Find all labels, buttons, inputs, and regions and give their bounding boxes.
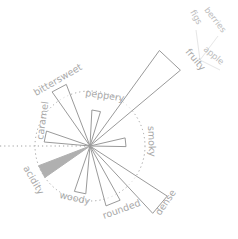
label-berries: berries bbox=[202, 5, 228, 35]
flavor-wheel-chart: fruity figs berries apple smoky dense ro… bbox=[0, 0, 238, 239]
label-woody: woody bbox=[59, 189, 92, 206]
wedge-rounded bbox=[90, 146, 120, 206]
label-peppery: peppery bbox=[85, 87, 126, 103]
label-smoky: smoky bbox=[146, 126, 158, 158]
